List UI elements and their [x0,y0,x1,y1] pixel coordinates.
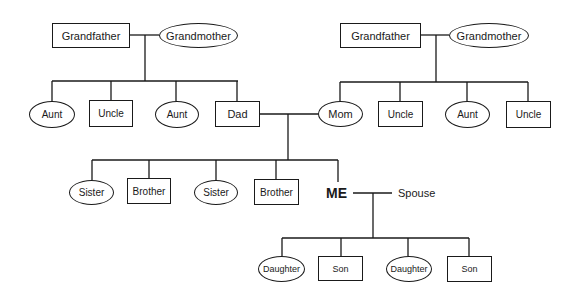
paternal-grandmother-node: Grandmother [159,23,238,48]
maternal-uncle-1-node: Uncle [378,101,423,127]
brother-1-node: Brother [127,178,171,204]
sister-1-node: Sister [69,180,114,205]
daughter-1-node: Daughter [258,256,305,282]
paternal-uncle-node: Uncle [89,100,133,127]
brother-2-node: Brother [254,179,299,205]
dad-node: Dad [215,101,260,127]
paternal-aunt-2-node: Aunt [155,101,199,128]
sister-2-node: Sister [194,180,238,205]
maternal-grandfather-node: Grandfather [340,23,421,48]
maternal-aunt-node: Aunt [445,101,490,128]
paternal-aunt-1-node: Aunt [29,101,75,128]
mom-node: Mom [318,101,363,127]
daughter-2-node: Daughter [386,256,432,282]
son-1-node: Son [318,256,363,281]
paternal-grandfather-node: Grandfather [52,23,130,48]
me-label: ME [326,183,347,203]
maternal-uncle-2-node: Uncle [506,101,551,128]
maternal-grandmother-node: Grandmother [449,23,529,48]
spouse-label: Spouse [398,185,435,201]
son-2-node: Son [447,256,492,282]
